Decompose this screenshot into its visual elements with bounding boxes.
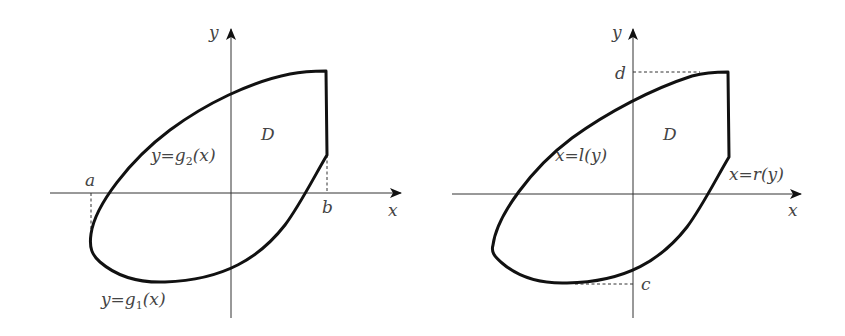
region-D-label: D [662, 124, 677, 144]
region-D-label: D [260, 124, 275, 144]
y-axis-label: y [611, 22, 622, 42]
bound-a-label: a [85, 170, 95, 190]
left-curve-label: x=l(y) [555, 145, 607, 165]
x-axis-label: x [388, 200, 398, 220]
diagram-canvas: y x a b D y=g2(x) y=g1(x) y x d c D x=l(… [0, 0, 845, 336]
region-boundary [90, 71, 327, 282]
right-panel: y x d c D x=l(y) x=r(y) [452, 22, 801, 318]
region-boundary [492, 72, 729, 283]
right-curve-label: x=r(y) [729, 164, 784, 184]
lower-curve-label: y=g1(x) [100, 289, 166, 312]
bound-c-label: c [641, 274, 651, 294]
bound-d-label: d [615, 63, 626, 83]
left-panel: y x a b D y=g2(x) y=g1(x) [50, 22, 401, 318]
y-axis-label: y [208, 22, 219, 42]
upper-curve-label: y=g2(x) [150, 145, 216, 168]
x-axis-label: x [788, 200, 798, 220]
bound-b-label: b [322, 197, 333, 217]
